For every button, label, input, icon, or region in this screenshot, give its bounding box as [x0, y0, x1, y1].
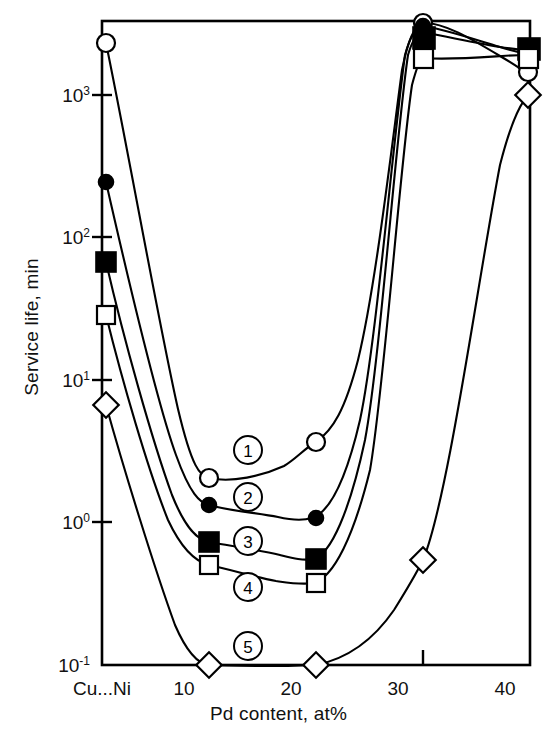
series-1-curve [106, 23, 530, 480]
callout-2: 2 [234, 483, 262, 511]
data-point [202, 498, 217, 513]
callout-5-label: 5 [243, 638, 252, 657]
figure-root: Service life, min 103 102 101 100 10-1 C… [0, 0, 557, 742]
callout-5: 5 [234, 632, 262, 660]
callout-3-label: 3 [243, 533, 252, 552]
callout-1-label: 1 [243, 442, 252, 461]
callout-3: 3 [234, 527, 262, 555]
callout-4-label: 4 [243, 579, 252, 598]
data-point [414, 49, 433, 68]
data-point [96, 252, 116, 272]
data-point [200, 469, 218, 487]
data-point [306, 549, 326, 569]
data-point [307, 574, 325, 592]
callout-2-label: 2 [243, 489, 252, 508]
plot-canvas: 1 2 3 4 5 [0, 0, 557, 742]
series-3-markers [96, 27, 540, 569]
data-point [93, 392, 118, 417]
data-point [97, 34, 115, 52]
data-point [413, 27, 435, 49]
data-point [303, 652, 328, 677]
series-3-curve [106, 32, 530, 560]
data-point [519, 49, 538, 68]
data-point [307, 433, 325, 451]
callout-4: 4 [234, 573, 262, 601]
series-4-curve [106, 55, 530, 584]
data-point [196, 652, 221, 677]
data-point [309, 511, 324, 526]
callout-1: 1 [234, 436, 262, 464]
data-point [410, 547, 435, 572]
data-point [515, 82, 540, 107]
data-point [97, 306, 115, 324]
data-point [200, 556, 218, 574]
data-point [199, 532, 219, 552]
data-point [99, 175, 114, 190]
